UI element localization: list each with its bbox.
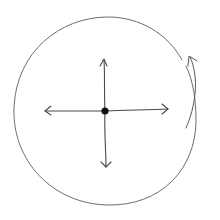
center-dot (101, 107, 108, 114)
up-arrow-icon (100, 59, 107, 110)
right-arrow-icon (106, 104, 168, 114)
rotation-arrow-icon (186, 56, 197, 128)
left-arrow-icon (45, 106, 104, 115)
sketch-diagram (0, 0, 220, 220)
down-arrow-icon (101, 112, 111, 167)
